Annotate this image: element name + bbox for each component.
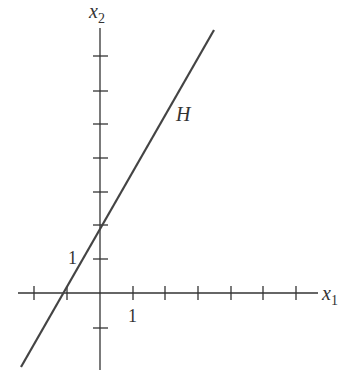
line-h (21, 30, 214, 367)
y-unit-label: 1 (68, 248, 77, 268)
x-axis-label: x1 (321, 282, 338, 308)
hyperplane-diagram: x2 x1 1 1 H (0, 0, 355, 381)
line-h-label: H (175, 103, 192, 125)
y-axis-label: x2 (88, 0, 105, 26)
x-unit-label: 1 (128, 306, 137, 326)
